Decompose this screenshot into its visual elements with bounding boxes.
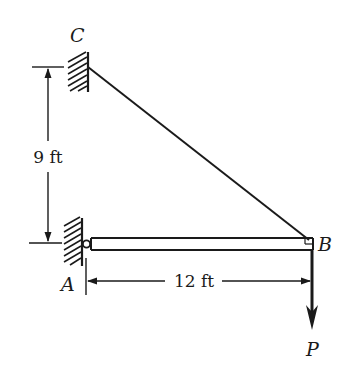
label-point-c: C: [70, 24, 85, 46]
beam-ab: [91, 238, 313, 250]
load-arrow-p: [306, 250, 318, 330]
wall-support-c: [68, 52, 88, 92]
label-dimension-vertical: 9 ft: [33, 147, 63, 167]
label-dimension-horizontal: 12 ft: [174, 271, 214, 291]
label-point-b: B: [317, 233, 332, 255]
label-load-p: P: [305, 338, 320, 360]
beam-cable-diagram: C A B P 9 ft 12 ft: [0, 0, 347, 371]
cable-bc: [88, 67, 309, 240]
pin-a-icon: [83, 240, 90, 247]
label-point-a: A: [59, 273, 75, 295]
wall-support-a: [64, 217, 82, 266]
